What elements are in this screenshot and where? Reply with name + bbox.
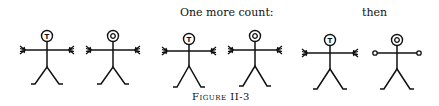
head-letter-t: T	[45, 33, 50, 41]
stick-figure-1-t: T	[20, 31, 74, 85]
circle-hand-left	[373, 51, 377, 55]
stick-figure-6-o	[373, 35, 421, 90]
stick-figure-3-t: T	[162, 34, 216, 88]
stick-figure-2-o	[86, 31, 140, 85]
figure-caption: Figure II-3	[192, 91, 250, 102]
circle-hand-right	[417, 51, 421, 55]
stick-figure-5-t: T	[302, 35, 358, 90]
head-letter-t: T	[187, 36, 192, 44]
head-letter-t: T	[328, 37, 333, 45]
stick-figure-4-o	[228, 31, 282, 87]
